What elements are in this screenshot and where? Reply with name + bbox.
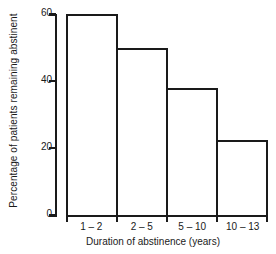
y-tick-label-0: 0 bbox=[24, 209, 52, 219]
y-tick-label-40: 40 bbox=[24, 75, 52, 85]
histogram-figure: Percentage of patients remaining abstine… bbox=[0, 0, 276, 254]
bar-1 bbox=[66, 14, 118, 217]
bar-4 bbox=[216, 140, 268, 217]
y-axis-line bbox=[55, 14, 57, 217]
y-tick-label-20: 20 bbox=[24, 142, 52, 152]
x-tick-label-4: 10 – 13 bbox=[218, 221, 269, 233]
bar-group bbox=[66, 8, 268, 217]
bar-3 bbox=[166, 88, 218, 217]
bar-2 bbox=[116, 48, 168, 218]
x-tick-label-group: 1 – 22 – 55 – 1010 – 13 bbox=[66, 221, 268, 233]
plot-area bbox=[66, 8, 268, 217]
y-axis-label: Percentage of patients remaining abstine… bbox=[8, 5, 19, 217]
y-tick-label-60: 60 bbox=[24, 8, 52, 18]
x-tick-label-2: 2 – 5 bbox=[117, 221, 168, 233]
x-tick-label-1: 1 – 2 bbox=[66, 221, 117, 233]
x-axis-label: Duration of abstinence (years) bbox=[30, 236, 276, 247]
x-tick-label-3: 5 – 10 bbox=[167, 221, 218, 233]
